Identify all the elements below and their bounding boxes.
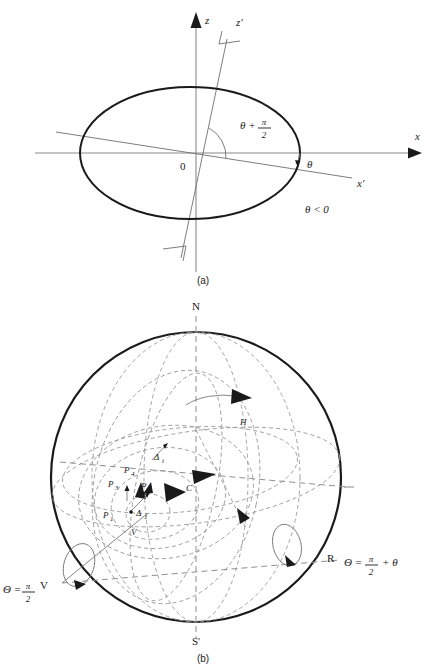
label-v-axis: V <box>40 579 48 591</box>
figure-root: x z x' z' 0 θ + π 2 θ θ < 0 <box>0 0 432 666</box>
x-axis-label: x <box>414 130 420 142</box>
caption-b: (b) <box>197 653 209 664</box>
theta-condition-label: θ < 0 <box>305 203 329 215</box>
label-p4-sub: 4 <box>131 470 135 478</box>
label-p4-text: P <box>123 465 130 475</box>
theta-plus-half-pi-theta: θ + <box>240 119 256 131</box>
label-delta-i-sub: i <box>162 457 164 465</box>
theta-v-denominator: 2 <box>26 594 31 604</box>
label-p3-sub: 3 <box>114 484 119 492</box>
origin-label: 0 <box>180 160 186 172</box>
label-p3-text: P <box>107 479 114 489</box>
theta-r-numerator: π <box>369 554 374 564</box>
label-delta-i-text: Δ <box>153 452 159 462</box>
label-delta-1-sub: 1 <box>144 513 148 521</box>
theta-angle-label: θ <box>307 158 313 170</box>
z-axis-label: z <box>204 14 210 26</box>
label-p1-text: P <box>102 510 109 520</box>
v-centre-dot <box>129 510 133 514</box>
theta-r-denominator: 2 <box>369 567 374 577</box>
label-p2-sub: 2 <box>148 486 152 494</box>
theta-r-tail: + θ <box>382 556 398 568</box>
north-pole-label: N <box>192 300 200 312</box>
theta-v-lhs: Θ = <box>3 583 21 595</box>
figure-svg: x z x' z' 0 θ + π 2 θ θ < 0 <box>0 0 432 666</box>
label-h: H <box>239 417 247 427</box>
theta-r-lhs: Θ = <box>344 556 362 568</box>
label-p2-text: P <box>140 481 147 491</box>
label-p1-sub: 1 <box>110 515 114 523</box>
x-prime-axis-label: x' <box>356 177 365 189</box>
label-delta-1-text: Δ <box>135 508 141 518</box>
south-pole-label-text: S' <box>192 635 200 647</box>
theta-v-numerator: π <box>26 581 31 591</box>
caption-a: (a) <box>197 275 209 286</box>
label-c: C <box>186 483 193 493</box>
south-pole-label: S' <box>192 635 200 647</box>
z-prime-axis-label: z' <box>235 16 243 28</box>
theta-plus-half-pi-denominator: 2 <box>262 130 267 140</box>
theta-plus-half-pi-numerator: π <box>262 117 267 127</box>
label-r-axis: R <box>327 552 335 564</box>
